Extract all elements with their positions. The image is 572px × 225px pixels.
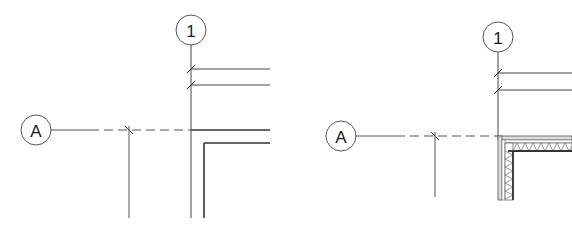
grid-bubble-1-left[interactable]: 1 [176, 15, 206, 45]
right-panel: 1 A [326, 22, 572, 200]
grid-label-1-right: 1 [493, 29, 502, 48]
wall-hatched-right [498, 136, 572, 200]
grid-label-1-left: 1 [186, 22, 195, 41]
grid-label-A-right: A [335, 128, 347, 147]
grid-bubble-A-right[interactable]: A [326, 121, 356, 151]
grid-drawing: 1 A 1 [0, 0, 572, 225]
left-panel: 1 A [21, 15, 270, 218]
drawing-canvas: 1 A 1 [0, 0, 572, 225]
wall-outline-left [191, 130, 270, 218]
grid-bubble-A-left[interactable]: A [21, 115, 51, 145]
grid-label-A-left: A [30, 122, 42, 141]
grid-bubble-1-right[interactable]: 1 [483, 22, 513, 52]
